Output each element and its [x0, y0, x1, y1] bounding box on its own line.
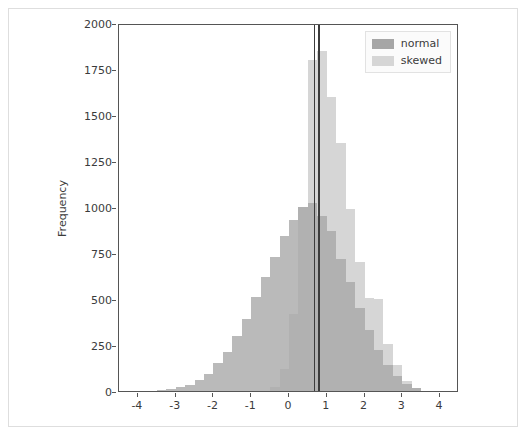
- histogram-bar-normal: [195, 380, 204, 391]
- mean-line-normal: [314, 25, 316, 391]
- histogram-bars-layer: [119, 25, 457, 391]
- legend-label-normal: normal: [401, 37, 440, 50]
- x-tick-mark: [401, 393, 402, 397]
- histogram-bar-normal: [393, 376, 402, 391]
- x-tick-label: -1: [245, 399, 256, 412]
- figure-page: Frequency 025050075010001250150017502000…: [0, 0, 526, 435]
- histogram-figure: Frequency 025050075010001250150017502000…: [0, 0, 526, 435]
- x-axis-ticks: -4-3-2-101234: [118, 393, 458, 421]
- x-tick-label: 4: [436, 399, 443, 412]
- y-tick-mark: [112, 116, 116, 117]
- histogram-bar-normal: [355, 308, 364, 391]
- x-tick-label: -2: [207, 399, 218, 412]
- histogram-bar-normal: [402, 384, 411, 391]
- x-tick-mark: [137, 393, 138, 397]
- histogram-bar-normal: [346, 282, 355, 391]
- y-tick-label: 500: [91, 294, 112, 307]
- histogram-bar-normal: [412, 388, 421, 391]
- histogram-bar-normal: [383, 365, 392, 391]
- histogram-bar-normal: [270, 257, 279, 391]
- y-tick-label: 1000: [84, 202, 112, 215]
- legend-swatch-normal: [372, 39, 394, 49]
- y-tick-mark: [112, 162, 116, 163]
- histogram-bar-normal: [223, 352, 232, 391]
- histogram-bar-normal: [298, 207, 307, 391]
- x-tick-mark: [175, 393, 176, 397]
- histogram-bar-normal: [242, 319, 251, 391]
- y-tick-label: 750: [91, 248, 112, 261]
- x-tick-mark: [364, 393, 365, 397]
- x-tick-mark: [439, 393, 440, 397]
- histogram-bar-normal: [213, 363, 222, 391]
- y-tick-mark: [112, 208, 116, 209]
- legend-item-normal: normal: [372, 37, 442, 50]
- x-tick-mark: [288, 393, 289, 397]
- mean-line-skewed: [318, 25, 320, 391]
- histogram-bar-normal: [157, 390, 166, 391]
- histogram-bar-normal: [374, 350, 383, 391]
- histogram-bar-normal: [204, 374, 213, 391]
- histogram-bar-normal: [251, 297, 260, 391]
- x-tick-mark: [250, 393, 251, 397]
- histogram-bar-normal: [176, 387, 185, 391]
- x-tick-label: 2: [360, 399, 367, 412]
- legend-label-skewed: skewed: [401, 54, 442, 67]
- y-tick-mark: [112, 24, 116, 25]
- y-tick-mark: [112, 346, 116, 347]
- histogram-bar-normal: [308, 203, 317, 391]
- y-tick-label: 2000: [84, 18, 112, 31]
- y-tick-mark: [112, 254, 116, 255]
- y-axis-ticks: 025050075010001250150017502000: [62, 24, 112, 392]
- x-tick-mark: [326, 393, 327, 397]
- histogram-bar-normal: [166, 389, 175, 391]
- y-tick-label: 1750: [84, 64, 112, 77]
- histogram-bar-normal: [232, 336, 241, 391]
- histogram-bar-normal: [280, 236, 289, 391]
- y-tick-mark: [112, 300, 116, 301]
- legend: normal skewed: [365, 31, 451, 73]
- x-tick-label: 1: [322, 399, 329, 412]
- y-tick-label: 0: [105, 386, 112, 399]
- x-tick-label: -3: [169, 399, 180, 412]
- y-tick-label: 250: [91, 340, 112, 353]
- histogram-bar-normal: [336, 259, 345, 391]
- histogram-bar-normal: [289, 220, 298, 391]
- y-tick-mark: [112, 392, 116, 393]
- histogram-bar-normal: [185, 385, 194, 391]
- histogram-bar-normal: [365, 330, 374, 391]
- x-tick-label: 3: [398, 399, 405, 412]
- histogram-bar-normal: [261, 277, 270, 391]
- histogram-bar-normal: [327, 231, 336, 391]
- legend-item-skewed: skewed: [372, 54, 442, 67]
- plot-area: normal skewed: [118, 24, 458, 392]
- y-tick-label: 1500: [84, 110, 112, 123]
- y-tick-mark: [112, 70, 116, 71]
- y-tick-label: 1250: [84, 156, 112, 169]
- x-tick-label: -4: [131, 399, 142, 412]
- x-tick-mark: [212, 393, 213, 397]
- x-tick-label: 0: [285, 399, 292, 412]
- legend-swatch-skewed: [372, 56, 394, 66]
